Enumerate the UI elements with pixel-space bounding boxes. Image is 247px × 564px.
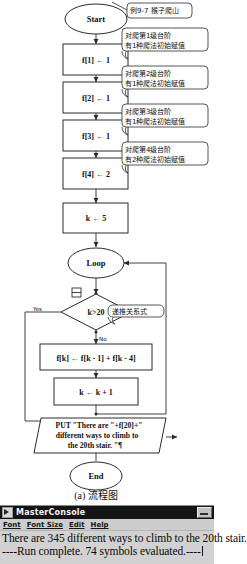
init2-label: f[2] ← 1 <box>82 94 110 103</box>
output-line1: PUT "There are "+f[20]+" <box>56 421 143 430</box>
output-line2: different ways to climb to <box>56 431 139 440</box>
start-label: Start <box>87 14 106 24</box>
console-output-area[interactable]: There are 345 different ways to climb to… <box>0 531 214 564</box>
loop-label: Loop <box>87 258 106 268</box>
init3-label: f[3] ← 1 <box>82 132 110 141</box>
console-title: MasterConsole <box>16 508 194 517</box>
master-console-window[interactable]: MasterConsole Font Font Size Edit Help T… <box>0 505 214 562</box>
yes-branch-label: Yes <box>32 306 42 312</box>
menu-item-edit[interactable]: Edit <box>69 521 85 529</box>
annotation4-line1: 对爬第4级台阶 <box>125 145 171 154</box>
application-icon <box>2 507 13 518</box>
recurrence-label: f[k] ← f[k - 1] + f[k - 4] <box>56 354 136 363</box>
console-output-line-1: There are 345 different ways to climb to… <box>2 532 212 545</box>
console-menu-bar[interactable]: Font Font Size Edit Help <box>0 519 214 531</box>
annotation4-line2: 有2种爬法初始赋值 <box>125 155 185 164</box>
menu-item-font-size[interactable]: Font Size <box>27 521 63 529</box>
console-title-bar[interactable]: MasterConsole <box>0 506 214 519</box>
minimize-button[interactable] <box>197 507 212 518</box>
flowchart-diagram: Start f[1] ← 1 f[2] ← 1 f[3] ← 1 f[4] ← … <box>0 0 214 503</box>
annotation1-line2: 有1种爬法初始赋值 <box>125 41 185 50</box>
annotation2-line2: 有1种爬法初始赋值 <box>125 79 185 88</box>
title-annotation-text: 例9-7 猴子爬山 <box>130 6 179 15</box>
annotation5-text: 递推关系式 <box>112 307 147 316</box>
annotation3-line2: 有1种爬法初始赋值 <box>125 117 185 126</box>
output-line3: the 20th stair. "¶ <box>68 441 122 450</box>
console-output-line-2-wrap: ----Run complete. 74 symbols evaluated.-… <box>2 545 212 558</box>
text-caret <box>202 546 203 556</box>
no-branch-label: No <box>99 336 107 342</box>
annotation3-line1: 对爬第3级台阶 <box>125 107 171 116</box>
menu-item-font[interactable]: Font <box>3 521 21 529</box>
decision-label: k>20 <box>87 308 104 317</box>
annotation1-line1: 对爬第1级台阶 <box>125 31 171 40</box>
end-label: End <box>88 471 103 481</box>
console-output-line-2: ----Run complete. 74 symbols evaluated.-… <box>2 545 201 557</box>
annotation2-line1: 对爬第2级台阶 <box>125 69 171 78</box>
k-init-label: k ← 5 <box>86 214 106 223</box>
increment-label: k ← k + 1 <box>79 388 112 397</box>
init1-label: f[1] ← 1 <box>82 56 110 65</box>
menu-item-help[interactable]: Help <box>91 521 109 529</box>
init4-label: f[4] ← 2 <box>82 170 110 179</box>
figure-caption: (a) 流程图 <box>74 489 118 502</box>
